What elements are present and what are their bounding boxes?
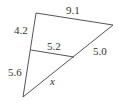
label-left-lower: 5.6 (8, 66, 22, 78)
triangle-diagram: 9.1 4.2 5.2 5.0 5.6 x (0, 0, 119, 103)
label-right-upper: 5.0 (93, 45, 107, 57)
label-right-lower-x: x (49, 75, 55, 87)
label-inner-segment: 5.2 (47, 40, 61, 52)
label-left-upper: 4.2 (14, 24, 28, 36)
label-top-side: 9.1 (66, 4, 80, 16)
